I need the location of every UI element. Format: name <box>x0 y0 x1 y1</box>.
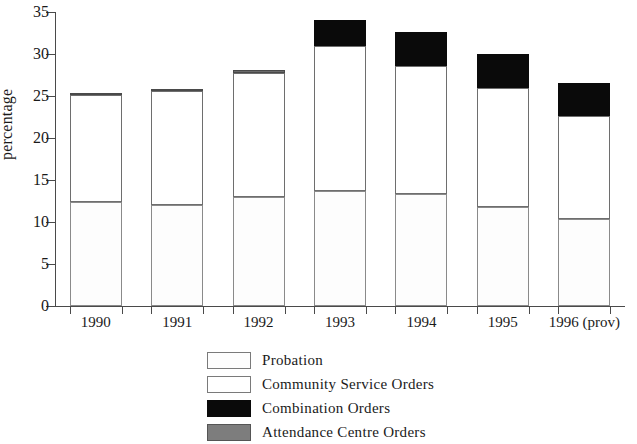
y-tick-label: 20 <box>33 130 49 146</box>
bar-segment-cso <box>151 91 203 205</box>
bar-segment-combination <box>395 32 447 66</box>
x-tick-mark <box>233 306 234 314</box>
x-tick-label: 1992 <box>244 314 274 331</box>
legend-swatch-probation <box>207 352 251 369</box>
legend-item[interactable]: Attendance Centre Orders <box>207 420 537 444</box>
bar-1991[interactable] <box>151 12 203 306</box>
x-tick-mark <box>122 306 123 314</box>
x-tick-mark <box>529 306 530 314</box>
bar-segment-probation <box>477 207 529 306</box>
bar-segment-cso <box>558 116 610 219</box>
bar-segment-cso <box>395 66 447 195</box>
bar-segment-probation <box>395 194 447 306</box>
bar-1993[interactable] <box>314 12 366 306</box>
x-tick-label: 1991 <box>162 314 192 331</box>
plot-area: 0510152025303519901991199219931994199519… <box>55 12 625 306</box>
x-tick-mark <box>366 306 367 314</box>
bar-segment-combination <box>314 20 366 45</box>
bar-segment-attendance <box>233 70 285 73</box>
bar-segment-probation <box>233 197 285 306</box>
x-tick-mark <box>314 306 315 314</box>
legend-item[interactable]: Combination Orders <box>207 396 537 420</box>
legend-item[interactable]: Community Service Orders <box>207 372 537 396</box>
legend-label: Community Service Orders <box>262 376 434 393</box>
bar-segment-probation <box>151 205 203 306</box>
bar-segment-combination <box>558 83 610 117</box>
y-tick-label: 25 <box>33 88 49 104</box>
bar-1992[interactable] <box>233 12 285 306</box>
bar-segment-probation <box>70 202 122 306</box>
bar-segment-attendance <box>70 93 122 96</box>
y-axis-title: percentage <box>0 89 16 160</box>
x-tick-mark <box>70 306 71 314</box>
bar-segment-probation <box>558 219 610 306</box>
y-tick-label: 30 <box>33 46 49 62</box>
bar-1994[interactable] <box>395 12 447 306</box>
y-tick-label: 10 <box>33 214 49 230</box>
x-tick-mark <box>447 306 448 314</box>
x-tick-mark <box>610 306 611 314</box>
chart-legend: ProbationCommunity Service OrdersCombina… <box>207 348 537 444</box>
stacked-bar-chart: percentage 05101520253035199019911992199… <box>0 0 637 444</box>
y-tick-label: 35 <box>33 4 49 20</box>
x-tick-label: 1994 <box>406 314 436 331</box>
x-tick-mark <box>285 306 286 314</box>
y-tick-label: 5 <box>41 256 49 272</box>
x-tick-label: 1993 <box>325 314 355 331</box>
bar-segment-combination <box>477 54 529 88</box>
bar-segment-probation <box>314 191 366 306</box>
x-tick-mark <box>203 306 204 314</box>
x-tick-mark <box>477 306 478 314</box>
x-tick-mark <box>395 306 396 314</box>
x-tick-mark <box>558 306 559 314</box>
bar-1990[interactable] <box>70 12 122 306</box>
bar-segment-cso <box>477 88 529 207</box>
bar-segment-cso <box>314 46 366 191</box>
y-tick-label: 0 <box>41 298 49 314</box>
bar-segment-attendance <box>151 89 203 91</box>
bar-segment-cso <box>233 73 285 196</box>
x-tick-mark <box>151 306 152 314</box>
legend-label: Attendance Centre Orders <box>262 424 426 441</box>
legend-swatch-combination <box>207 400 251 417</box>
x-tick-label: 1990 <box>81 314 111 331</box>
x-tick-label: 1995 <box>488 314 518 331</box>
legend-swatch-cso <box>207 376 251 393</box>
bar-1996-prov-[interactable] <box>558 12 610 306</box>
legend-swatch-attendance <box>207 424 251 441</box>
bar-1995[interactable] <box>477 12 529 306</box>
legend-label: Probation <box>262 352 323 369</box>
x-axis-line <box>55 306 625 307</box>
x-tick-label: 1996 (prov) <box>549 314 620 331</box>
legend-item[interactable]: Probation <box>207 348 537 372</box>
legend-label: Combination Orders <box>262 400 390 417</box>
bar-segment-cso <box>70 95 122 202</box>
y-tick-label: 15 <box>33 172 49 188</box>
